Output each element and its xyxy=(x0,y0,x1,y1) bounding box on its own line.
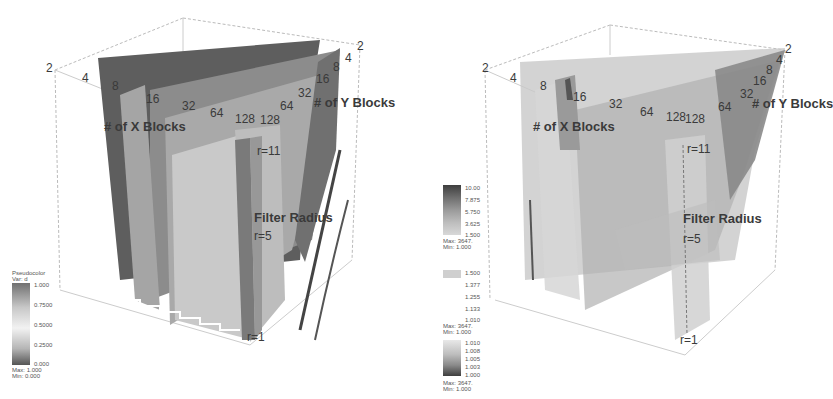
y-tick-16: 16 xyxy=(753,75,766,87)
legend-tick: 1.008 xyxy=(465,348,480,354)
right-3d-plot: 2 4 8 16 32 64 128 # of X Blocks 2 4 8 1… xyxy=(415,0,830,399)
y-axis-title: # of Y Blocks xyxy=(314,96,395,109)
legend-tick: 0.7500 xyxy=(34,302,52,308)
legend-tick: 1.000 xyxy=(34,282,49,288)
legend-min: Min: 0.000 xyxy=(12,373,40,379)
legend-tick: 1.133 xyxy=(465,306,480,312)
y-tick-2: 2 xyxy=(357,40,364,52)
y-tick-128: 128 xyxy=(260,114,280,126)
y-tick-16: 16 xyxy=(316,73,329,85)
legend-tick: 1.003 xyxy=(465,364,480,370)
legend-tick: 10.00 xyxy=(465,185,480,191)
z-tick-r11: r=11 xyxy=(257,145,280,157)
legend-tick: 5.750 xyxy=(465,209,480,215)
legend-min: Min: 1.000 xyxy=(443,386,471,392)
legend-color-bar xyxy=(443,185,461,235)
legend-color-bar xyxy=(443,340,461,376)
x-axis-title: # of X Blocks xyxy=(104,120,186,133)
legend-min: Min: 1.000 xyxy=(443,329,471,335)
legend-variable: Var: d xyxy=(12,276,28,282)
legend-tick: 7.875 xyxy=(465,197,480,203)
z-axis-title: Filter Radius xyxy=(683,212,762,225)
x-tick-4: 4 xyxy=(510,72,517,84)
left-3d-surface-render xyxy=(0,0,415,399)
z-tick-r1: r=1 xyxy=(247,331,265,343)
z-tick-r11: r=11 xyxy=(687,143,710,155)
color-legend-1: 10.00 7.875 5.750 3.625 1.500 Max: 3647.… xyxy=(443,185,493,245)
color-legend: Pseudocolor Var: d 1.000 0.7500 0.5000 0… xyxy=(12,270,62,380)
y-tick-64: 64 xyxy=(718,101,731,113)
x-tick-16: 16 xyxy=(573,91,586,103)
x-axis-title: # of X Blocks xyxy=(533,120,615,133)
x-tick-64: 64 xyxy=(640,106,653,118)
legend-tick: 3.625 xyxy=(465,221,480,227)
x-tick-128: 128 xyxy=(235,113,255,125)
legend-tick: 1.500 xyxy=(465,270,480,276)
y-tick-4: 4 xyxy=(776,54,783,66)
y-tick-8: 8 xyxy=(766,64,773,76)
x-tick-2: 2 xyxy=(482,62,489,74)
y-axis-title: # of Y Blocks xyxy=(752,97,833,110)
y-tick-2: 2 xyxy=(785,43,792,55)
x-tick-16: 16 xyxy=(146,93,159,105)
color-legend-3: 1.010 1.008 1.005 1.003 1.000 Max: 3647.… xyxy=(443,340,493,399)
legend-tick: 0.5000 xyxy=(34,322,52,328)
z-tick-r5: r=5 xyxy=(254,230,272,242)
legend-tick: 0.2500 xyxy=(34,342,52,348)
x-tick-32: 32 xyxy=(182,100,195,112)
left-3d-plot: 2 4 8 16 32 64 128 # of X Blocks 2 4 8 1… xyxy=(0,0,415,399)
color-legend-2: 1.500 1.377 1.255 1.133 1.010 Max: 3647.… xyxy=(443,270,493,330)
y-tick-4: 4 xyxy=(345,52,352,64)
legend-tick: 1.010 xyxy=(465,340,480,346)
x-tick-4: 4 xyxy=(82,72,89,84)
y-tick-128: 128 xyxy=(685,113,705,125)
y-tick-64: 64 xyxy=(280,100,293,112)
z-tick-r5: r=5 xyxy=(683,233,701,245)
legend-min: Min: 1.000 xyxy=(443,244,471,250)
legend-tick: 1.005 xyxy=(465,356,480,362)
x-tick-2: 2 xyxy=(46,62,53,74)
x-tick-8: 8 xyxy=(540,80,547,92)
y-tick-32: 32 xyxy=(298,87,311,99)
legend-tick: 1.000 xyxy=(465,372,480,378)
x-tick-8: 8 xyxy=(112,80,119,92)
legend-color-bar xyxy=(443,270,461,278)
x-tick-32: 32 xyxy=(609,98,622,110)
z-axis-title: Filter Radius xyxy=(254,211,333,224)
legend-color-bar xyxy=(12,283,30,365)
legend-tick: 1.377 xyxy=(465,282,480,288)
z-tick-r1: r=1 xyxy=(680,334,698,346)
x-tick-128: 128 xyxy=(666,111,686,123)
x-tick-64: 64 xyxy=(210,107,223,119)
legend-tick: 1.255 xyxy=(465,294,480,300)
y-tick-8: 8 xyxy=(333,61,340,73)
